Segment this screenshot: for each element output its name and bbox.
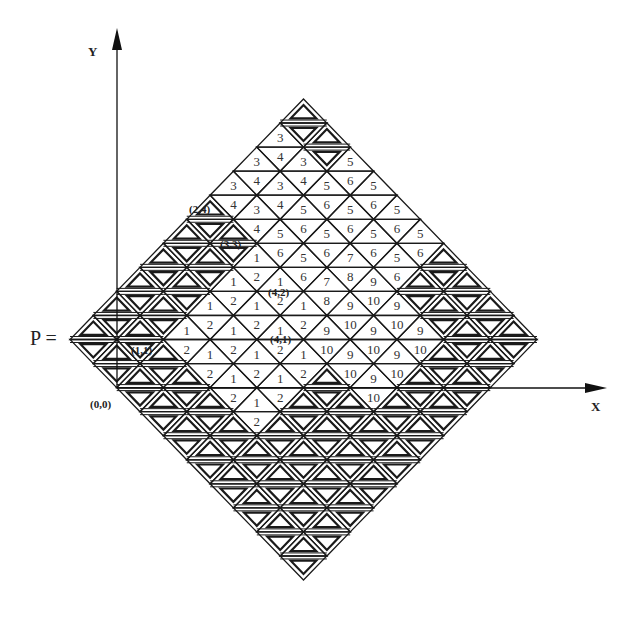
pattern-triangle-down-icon xyxy=(407,296,433,309)
pattern-triangle-up-icon xyxy=(221,418,247,431)
pattern-triangle-down-icon xyxy=(361,489,387,502)
pattern-triangle-up-icon xyxy=(151,249,177,262)
cell-value: 4 xyxy=(300,173,307,188)
pattern-triangle-up-icon xyxy=(221,466,247,479)
pattern-triangle-up-icon xyxy=(127,273,153,286)
cell-value: 9 xyxy=(394,347,401,362)
pattern-triangle-up-icon xyxy=(431,394,457,407)
cell-value: 1 xyxy=(254,395,261,410)
pattern-triangle-up-icon xyxy=(151,298,177,311)
pattern-triangle-up-icon xyxy=(291,538,317,551)
cell-value: 2 xyxy=(300,366,307,381)
cell-value: 6 xyxy=(300,221,307,236)
cell-value: 2 xyxy=(300,317,307,332)
pattern-triangle-down-icon xyxy=(221,440,247,453)
pattern-triangle-down-icon xyxy=(454,392,480,405)
pattern-triangle-down-icon xyxy=(384,416,410,429)
pattern-triangle-down-icon xyxy=(337,513,363,526)
pattern-triangle-up-icon xyxy=(197,249,223,262)
cell-value: 3 xyxy=(277,178,284,193)
pattern-triangle-up-icon xyxy=(384,394,410,407)
pattern-triangle-down-icon xyxy=(337,416,363,429)
cell-value: 6 xyxy=(300,269,307,284)
pattern-triangle-up-icon xyxy=(407,418,433,431)
pattern-triangle-up-icon xyxy=(174,273,200,286)
pattern-triangle-down-icon xyxy=(267,489,293,502)
pattern-triangle-up-icon xyxy=(221,225,247,238)
coordinate-label: (3,3) xyxy=(220,238,241,250)
cell-value: 1 xyxy=(184,323,191,338)
cell-value: 5 xyxy=(394,202,401,217)
cell-value: 4 xyxy=(277,149,284,164)
cell-value: 6 xyxy=(324,245,331,260)
cell-value: 1 xyxy=(207,347,214,362)
pattern-triangle-down-icon xyxy=(314,489,340,502)
cell-value: 5 xyxy=(347,202,354,217)
pattern-triangle-up-icon xyxy=(314,129,340,142)
cell-value: 1 xyxy=(277,371,284,386)
cell-value: 7 xyxy=(324,274,331,289)
pattern-triangle-up-icon xyxy=(127,370,153,383)
pattern-triangle-up-icon xyxy=(244,442,270,455)
cell-value: 9 xyxy=(347,347,354,362)
pattern-triangle-up-icon xyxy=(291,394,317,407)
y-axis-label: Y xyxy=(88,44,97,60)
pattern-triangle-down-icon xyxy=(174,248,200,261)
cell-value: 9 xyxy=(394,298,401,313)
pattern-triangle-down-icon xyxy=(337,465,363,478)
cell-value: 5 xyxy=(324,178,331,193)
pattern-triangle-up-icon xyxy=(431,298,457,311)
cell-value: 10 xyxy=(390,366,403,381)
cell-value: 6 xyxy=(394,221,401,236)
pattern-triangle-up-icon xyxy=(197,442,223,455)
pattern-triangle-down-icon xyxy=(314,440,340,453)
pattern-triangle-up-icon xyxy=(174,418,200,431)
pattern-triangle-up-icon xyxy=(431,249,457,262)
coordinate-label: (4,1) xyxy=(270,333,291,345)
cell-value: 4 xyxy=(277,197,284,212)
cell-value: 1 xyxy=(254,298,261,313)
pattern-triangle-down-icon xyxy=(291,465,317,478)
cell-value: 10 xyxy=(344,317,357,332)
y-arrowhead-icon xyxy=(112,28,122,50)
pattern-triangle-down-icon xyxy=(151,272,177,285)
grid-triangle xyxy=(420,243,467,267)
pattern-triangle-down-icon xyxy=(431,416,457,429)
x-arrowhead-icon xyxy=(585,383,607,393)
cell-value: 9 xyxy=(347,298,354,313)
cell-value: 4 xyxy=(230,197,237,212)
cell-value: 10 xyxy=(390,317,403,332)
pattern-triangle-down-icon xyxy=(291,128,317,141)
cell-value: 6 xyxy=(347,221,354,236)
pattern-triangle-up-icon xyxy=(454,322,480,335)
pattern-triangle-up-icon xyxy=(337,442,363,455)
cell-value: 1 xyxy=(300,298,307,313)
cell-value: 5 xyxy=(370,178,377,193)
cell-value: 5 xyxy=(417,226,424,241)
pattern-triangle-up-icon xyxy=(314,418,340,431)
pattern-triangle-down-icon xyxy=(314,392,340,405)
cell-value: 2 xyxy=(207,317,214,332)
pattern-triangle-up-icon xyxy=(267,418,293,431)
cell-value: 2 xyxy=(207,366,214,381)
cell-value: 2 xyxy=(254,414,261,429)
pattern-triangle-up-icon xyxy=(337,490,363,503)
cell-value: 1 xyxy=(254,250,261,265)
cell-value: 10 xyxy=(367,390,380,405)
pattern-triangle-down-icon xyxy=(197,465,223,478)
pattern-triangle-down-icon xyxy=(174,296,200,309)
pattern-triangle-down-icon xyxy=(221,489,247,502)
pattern-triangle-up-icon xyxy=(478,346,504,359)
p-equals-label: P = xyxy=(30,327,57,350)
pattern-triangle-up-icon xyxy=(478,298,504,311)
cell-value: 5 xyxy=(324,226,331,241)
cell-value: 6 xyxy=(347,173,354,188)
coordinate-label: (4,2) xyxy=(268,286,289,298)
grid-cells: 3343534345654345656545656565165676561216… xyxy=(70,99,537,580)
pattern-triangle-up-icon xyxy=(174,225,200,238)
pattern-triangle-up-icon xyxy=(361,418,387,431)
pattern-triangle-down-icon xyxy=(81,344,107,357)
cell-value: 9 xyxy=(324,323,331,338)
cell-value: 9 xyxy=(417,323,424,338)
pattern-triangle-down-icon xyxy=(361,440,387,453)
